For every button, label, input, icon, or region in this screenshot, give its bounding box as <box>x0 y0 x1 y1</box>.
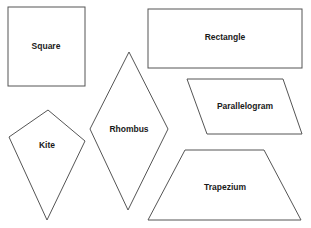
rhombus-label: Rhombus <box>109 124 148 134</box>
trapezium-label: Trapezium <box>204 182 246 192</box>
quadrilaterals-diagram: Square Rectangle Rhombus Kite Parallelog… <box>0 0 311 228</box>
parallelogram-label: Parallelogram <box>217 101 274 111</box>
parallelogram-group: Parallelogram <box>187 79 302 134</box>
kite-group: Kite <box>9 110 85 220</box>
rectangle-label: Rectangle <box>205 32 246 42</box>
square-group: Square <box>8 7 85 86</box>
rhombus-group: Rhombus <box>90 52 168 210</box>
kite-shape <box>9 110 85 220</box>
rectangle-group: Rectangle <box>148 9 302 68</box>
trapezium-group: Trapezium <box>148 150 301 220</box>
kite-label: Kite <box>39 140 55 150</box>
square-label: Square <box>32 41 61 51</box>
